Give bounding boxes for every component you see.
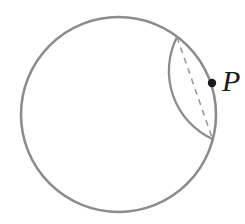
geometry-figure: P xyxy=(0,0,245,224)
point-p-dot xyxy=(208,79,216,87)
folded-flap-arc xyxy=(169,37,213,139)
point-p-label: P xyxy=(221,64,240,97)
folded-circle-diagram: P xyxy=(0,0,245,224)
main-circle xyxy=(21,17,216,212)
